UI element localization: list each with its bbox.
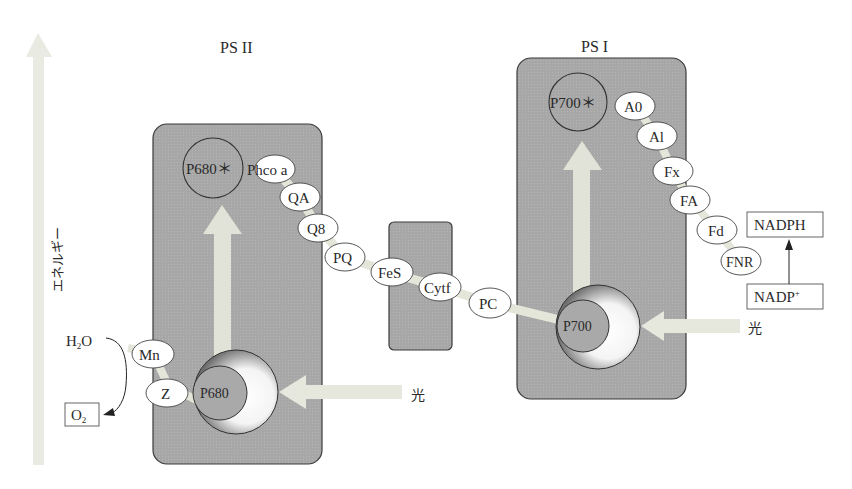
nadp-reduction-arrow [785,239,793,284]
carrier-fd: Fd [697,216,737,244]
p700-excited-label: P700＊ [550,95,596,111]
svg-text:FA: FA [680,193,698,209]
svg-text:PC: PC [479,296,497,312]
svg-text:Q8: Q8 [307,221,325,237]
light-label-psi: 光 [748,320,762,336]
svg-text:Phco a: Phco a [247,162,288,178]
water-oxidation-arrow [103,338,126,416]
carrier-fa: FA [670,186,710,214]
psi-label: PS I [581,38,608,55]
carrier-pc: PC [469,288,511,318]
svg-text:Mn: Mn [139,347,160,363]
svg-text:QA: QA [288,190,310,206]
nadp-label: NADP+ [754,288,800,305]
nadph-label: NADPH [754,217,806,233]
z-scheme-diagram: エネルギー PS II PS I P680＊ P700＊ P680 P700 光 [0,0,852,489]
p680-excited-label: P680＊ [186,161,232,177]
svg-text:FNR: FNR [726,255,754,270]
svg-text:A0: A0 [624,99,642,115]
donor-z: Z [146,379,188,407]
svg-text:Z: Z [161,386,170,402]
p700-ground-label: P700 [563,319,592,334]
carrier-cytf: Cytf [419,273,461,301]
carrier-fx: Fx [653,157,693,185]
svg-text:Fx: Fx [664,164,680,180]
svg-text:Cytf: Cytf [424,280,451,296]
light-label-psii: 光 [411,387,425,403]
psii-label: PS II [220,39,252,56]
svg-text:Al: Al [649,129,664,145]
carrier-q8: Q8 [298,214,338,242]
carrier-fnr: FNR [721,247,761,275]
svg-text:PQ: PQ [333,250,352,266]
carrier-al: Al [637,122,677,150]
carrier-qa: QA [280,183,320,211]
energy-axis-arrow [26,33,52,465]
energy-axis-label: エネルギー [50,227,65,292]
p680-ground-label: P680 [200,386,229,401]
carrier-fes: FeS [371,258,413,286]
carrier-pq: PQ [325,243,365,271]
svg-text:Fd: Fd [708,223,724,239]
carrier-a0: A0 [615,92,655,120]
svg-text:FeS: FeS [378,265,401,281]
water-label: H2O [66,333,92,351]
donor-mn: Mn [132,340,174,368]
